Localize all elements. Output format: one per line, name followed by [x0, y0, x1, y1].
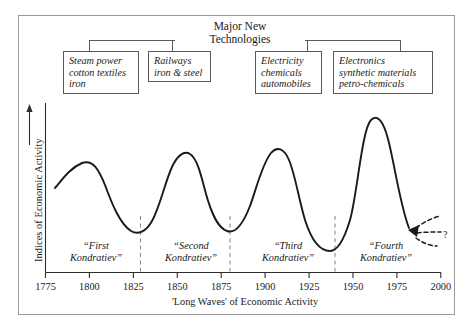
technology-box-second-line-2: iron & steel — [154, 67, 206, 79]
uncertainty-dash-upper — [416, 216, 440, 228]
figure-title: Major New Technologies — [175, 20, 305, 45]
technology-box-second: Railways iron & steel — [148, 51, 211, 82]
wave-label-first: “First Kondratiev” — [48, 240, 144, 264]
x-axis-tick-label-1850: 1850 — [157, 281, 197, 292]
technology-box-fourth-line-1: Electronics — [339, 55, 428, 67]
x-axis-tick-label-1975: 1975 — [377, 281, 417, 292]
wave-label-first-line-1: “First — [48, 240, 144, 252]
wave-label-second-line-1: “Second — [143, 240, 239, 252]
wave-label-first-line-2: Kondratiev” — [48, 252, 144, 264]
wave-label-third: “Third Kondratiev” — [240, 240, 336, 264]
x-axis-tick-label-1825: 1825 — [113, 281, 153, 292]
axis-lines: ? — [0, 0, 471, 329]
wave-label-third-line-2: Kondratiev” — [240, 252, 336, 264]
technology-box-third-line-1: Electricity — [261, 55, 317, 67]
x-axis-tick-label-1900: 1900 — [245, 281, 285, 292]
x-axis-ticks — [46, 273, 441, 279]
technology-box-first: Steam power cotton textiles iron — [63, 51, 139, 94]
x-axis-label: 'Long Waves' of Economic Activity — [125, 296, 365, 307]
x-axis-tick-label-1875: 1875 — [201, 281, 241, 292]
technology-box-first-line-2: cotton textiles — [69, 67, 134, 79]
technology-box-third: Electricity chemicals automobiles — [255, 51, 322, 94]
figure-title-line-2: Technologies — [175, 33, 305, 46]
technology-box-first-line-1: Steam power — [69, 55, 134, 67]
uncertainty-arrow-head — [408, 225, 419, 237]
x-axis-tick-label-1950: 1950 — [333, 281, 373, 292]
wave-label-second: “Second Kondratiev” — [143, 240, 239, 264]
wave-label-fourth: “Fourth Kondratiev” — [338, 240, 434, 264]
figure-title-line-1: Major New — [175, 20, 305, 33]
technology-box-fourth-line-3: petro-chemicals — [339, 78, 428, 90]
wave-label-second-line-2: Kondratiev” — [143, 252, 239, 264]
y-axis-arrow-head — [26, 104, 32, 112]
technology-box-fourth-line-2: synthetic materials — [339, 67, 428, 79]
wave-label-third-line-1: “Third — [240, 240, 336, 252]
kondratiev-long-waves-figure: Major New Technologies Steam power cotto… — [0, 0, 471, 329]
x-axis-tick-label-1775: 1775 — [26, 281, 66, 292]
technology-box-fourth: Electronics synthetic materials petro-ch… — [333, 51, 433, 94]
technology-box-third-line-2: chemicals — [261, 67, 317, 79]
uncertainty-dash-middle — [417, 232, 441, 233]
technology-box-third-line-3: automobiles — [261, 78, 317, 90]
x-axis-tick-label-2000: 2000 — [421, 281, 461, 292]
long-wave-curve — [55, 118, 409, 251]
wave-label-fourth-line-2: Kondratiev” — [338, 252, 434, 264]
x-axis-tick-label-1800: 1800 — [69, 281, 109, 292]
wave-label-fourth-line-1: “Fourth — [338, 240, 434, 252]
technology-box-second-line-1: Railways — [154, 55, 206, 67]
x-axis-tick-label-1925: 1925 — [289, 281, 329, 292]
technology-box-first-line-3: iron — [69, 78, 134, 90]
uncertainty-question-mark: ? — [443, 229, 448, 240]
